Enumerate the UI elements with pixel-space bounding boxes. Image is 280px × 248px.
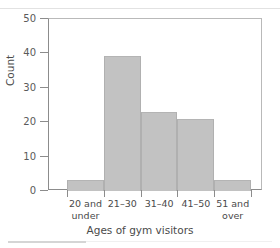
x-tick-label-4: 51 and over <box>209 198 256 221</box>
bottom-divider <box>8 241 86 243</box>
x-tick-label-4-line2: over <box>209 210 256 222</box>
bottom-divider-faint <box>86 241 272 242</box>
bar-41-50 <box>177 119 214 191</box>
x-tick-3 <box>177 190 178 197</box>
x-axis-label: Ages of gym visitors <box>0 224 280 236</box>
y-tick-label-4: 40 <box>18 47 36 58</box>
x-tick-2 <box>141 190 142 197</box>
x-tick-4 <box>214 190 215 197</box>
y-tick-label-1: 10 <box>18 151 36 162</box>
bar-21-30 <box>104 56 141 191</box>
bar-20-and-under <box>67 180 104 191</box>
y-tick-label-3: 30 <box>18 82 36 93</box>
y-axis-label: Count <box>4 55 16 86</box>
y-tick-5 <box>40 18 48 19</box>
y-tick-label-0: 0 <box>18 185 36 196</box>
x-tick-label-4-line1: 51 and <box>209 198 256 210</box>
y-tick-0 <box>40 190 48 191</box>
y-tick-label-2: 20 <box>18 116 36 127</box>
x-tick-0 <box>67 190 68 197</box>
x-tick-label-0-line2: under <box>62 210 109 222</box>
histogram-figure: Count 0 10 20 30 40 50 20 and under 21–3… <box>0 0 280 248</box>
x-tick-1 <box>104 190 105 197</box>
y-tick-1 <box>40 156 48 157</box>
bar-31-40 <box>141 112 178 191</box>
y-tick-label-5: 50 <box>18 13 36 24</box>
y-tick-2 <box>40 121 48 122</box>
y-tick-4 <box>40 52 48 53</box>
bar-51-and-over <box>214 180 251 191</box>
y-tick-3 <box>40 87 48 88</box>
top-divider <box>0 8 280 9</box>
x-tick-5 <box>251 190 252 197</box>
